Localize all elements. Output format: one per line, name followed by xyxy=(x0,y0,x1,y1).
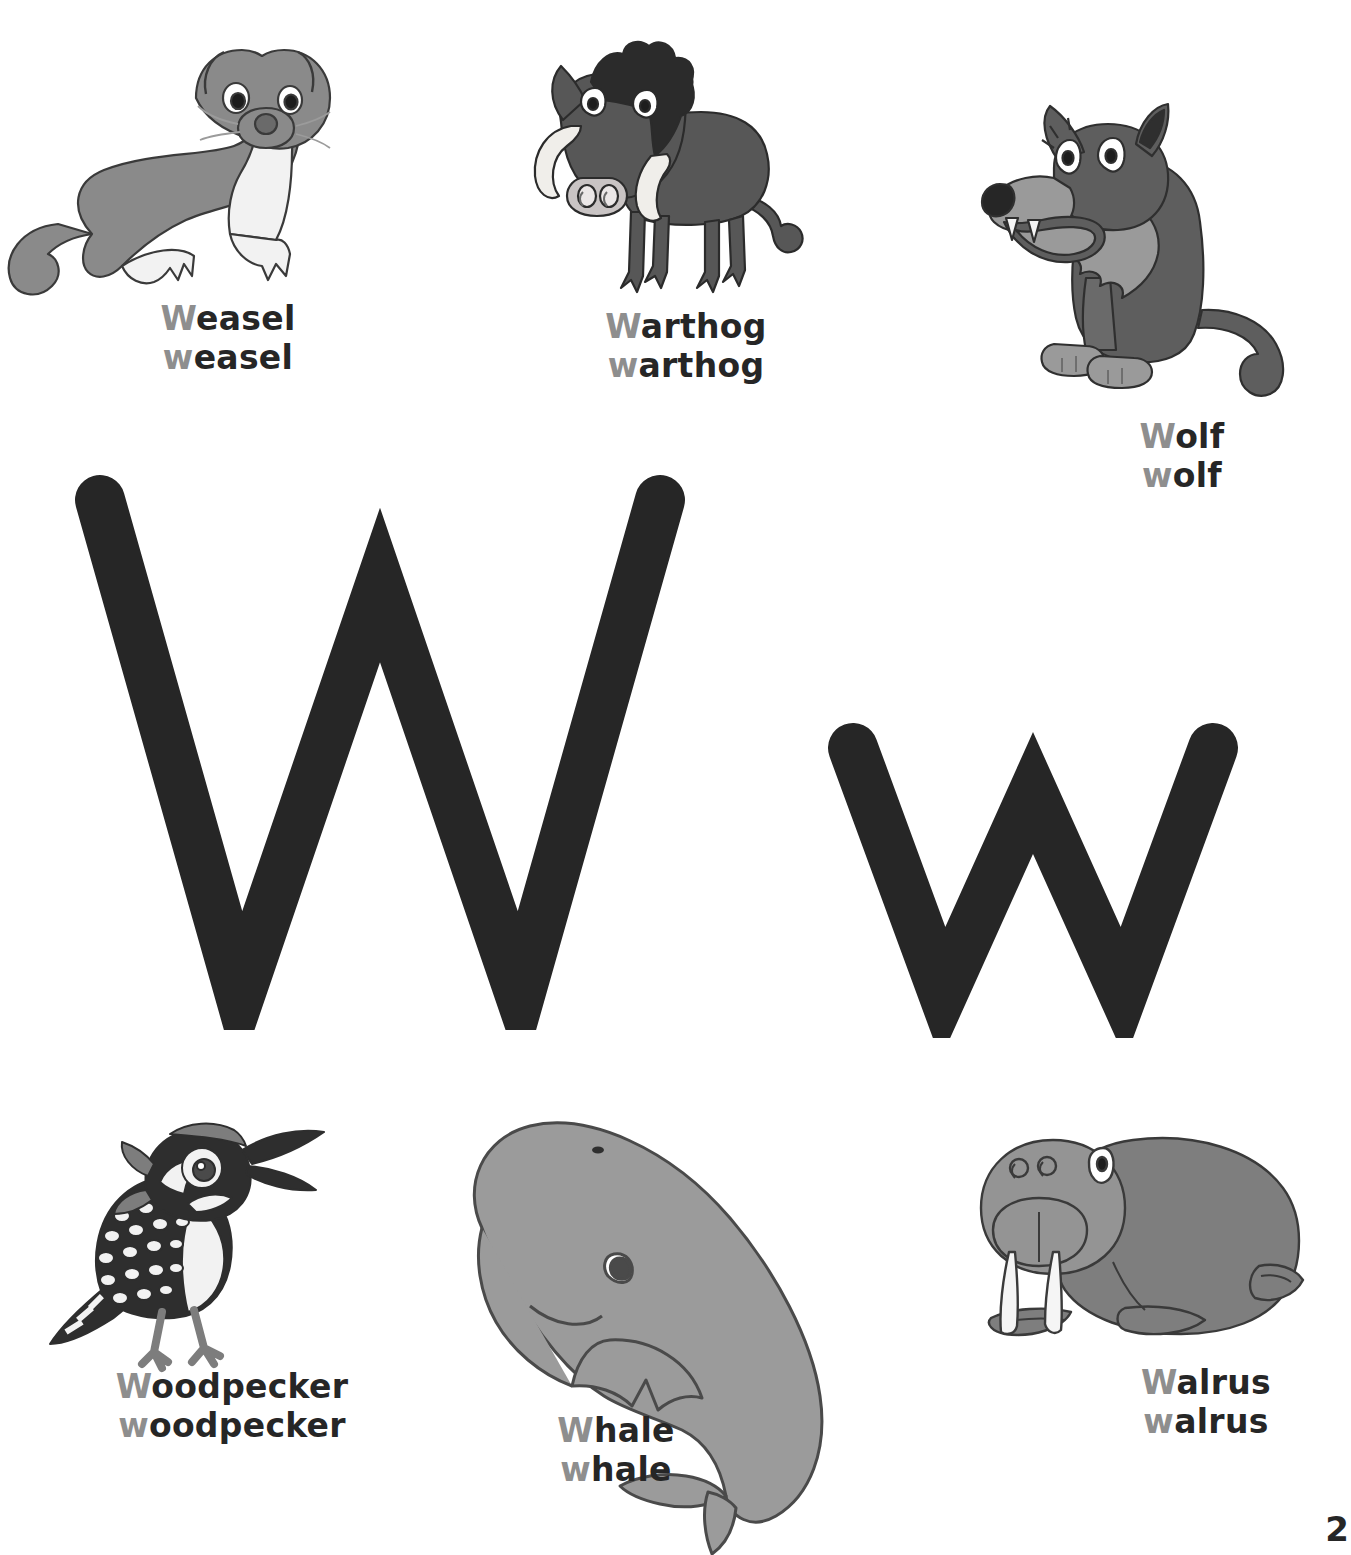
warthog-uppercase-initial: W xyxy=(605,307,641,346)
walrus-lowercase-line: walrus xyxy=(1046,1403,1351,1442)
whale-lowercase-rest: hale xyxy=(591,1450,672,1489)
woodpecker-illustration xyxy=(42,1112,332,1374)
walrus-illustration xyxy=(955,1112,1305,1360)
woodpecker-uppercase-line: Woodpecker xyxy=(12,1368,452,1407)
weasel-lowercase-line: weasel xyxy=(38,339,418,378)
walrus-uppercase-rest: alrus xyxy=(1177,1363,1272,1402)
wolf-lowercase-line: wolf xyxy=(1022,457,1342,496)
woodpecker-lowercase-initial: w xyxy=(118,1406,149,1445)
warthog-lowercase-rest: arthog xyxy=(638,346,764,385)
warthog-illustration xyxy=(505,30,825,305)
whale-uppercase-rest: hale xyxy=(594,1411,675,1450)
weasel-uppercase-initial: W xyxy=(160,299,196,338)
whale-lowercase-line: whale xyxy=(466,1451,766,1490)
woodpecker-uppercase-initial: W xyxy=(116,1367,152,1406)
page-number: 2 xyxy=(1325,1509,1349,1549)
label-warthog: Warthog warthog xyxy=(516,308,856,386)
walrus-uppercase-initial: W xyxy=(1141,1363,1177,1402)
warthog-uppercase-line: Warthog xyxy=(516,308,856,347)
wolf-uppercase-line: Wolf xyxy=(1022,418,1342,457)
woodpecker-uppercase-rest: oodpecker xyxy=(151,1367,348,1406)
label-wolf: Wolf wolf xyxy=(1022,418,1342,496)
lowercase-letter-w xyxy=(818,718,1268,1038)
walrus-lowercase-initial: w xyxy=(1143,1402,1174,1441)
weasel-uppercase-rest: easel xyxy=(196,299,296,338)
walrus-lowercase-rest: alrus xyxy=(1174,1402,1269,1441)
label-weasel: Weasel weasel xyxy=(38,300,418,378)
wolf-uppercase-initial: W xyxy=(1140,417,1176,456)
weasel-uppercase-line: Weasel xyxy=(38,300,418,339)
weasel-illustration xyxy=(0,28,340,303)
warthog-uppercase-rest: arthog xyxy=(641,307,767,346)
whale-uppercase-line: Whale xyxy=(466,1412,766,1451)
weasel-lowercase-rest: easel xyxy=(194,338,294,377)
wolf-illustration xyxy=(958,82,1298,412)
warthog-lowercase-line: warthog xyxy=(516,347,856,386)
label-walrus: Walrus walrus xyxy=(1046,1364,1351,1442)
wolf-lowercase-initial: w xyxy=(1142,456,1173,495)
whale-uppercase-initial: W xyxy=(557,1411,594,1450)
uppercase-letter-w xyxy=(60,470,880,1030)
warthog-lowercase-initial: w xyxy=(608,346,639,385)
label-whale: Whale whale xyxy=(466,1412,766,1490)
wolf-uppercase-rest: olf xyxy=(1175,417,1224,456)
wolf-lowercase-rest: olf xyxy=(1173,456,1222,495)
woodpecker-lowercase-line: woodpecker xyxy=(12,1407,452,1446)
whale-lowercase-initial: w xyxy=(560,1450,591,1489)
label-woodpecker: Woodpecker woodpecker xyxy=(12,1368,452,1446)
weasel-lowercase-initial: w xyxy=(163,338,194,377)
walrus-uppercase-line: Walrus xyxy=(1046,1364,1351,1403)
woodpecker-lowercase-rest: oodpecker xyxy=(149,1406,346,1445)
